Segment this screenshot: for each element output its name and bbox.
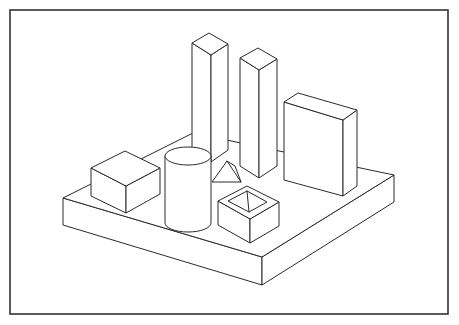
- upright-slab-wall: [284, 93, 357, 196]
- tall-rectangular-prism-right: [240, 48, 277, 178]
- tower-right-left-face: [240, 58, 259, 178]
- slab-wall-side-face: [343, 110, 357, 196]
- cylinder-top-ellipse: [165, 147, 211, 165]
- tower-left-right-face: [211, 44, 228, 162]
- cylinder: [165, 147, 211, 232]
- tower-left-left-face: [192, 43, 211, 162]
- tall-rectangular-prism-left: [192, 33, 228, 162]
- solids-scene-svg: [0, 0, 459, 325]
- tower-right-right-face: [259, 59, 277, 178]
- cylinder-body: [165, 156, 211, 232]
- drawing-canvas: [0, 0, 459, 325]
